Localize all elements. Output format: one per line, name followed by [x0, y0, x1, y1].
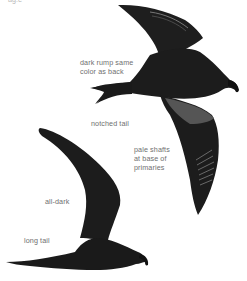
field-guide-illustration: ag.e dark rump same color as back notche… — [0, 0, 247, 281]
label-dark-rump: dark rump same color as back — [80, 58, 133, 76]
cropped-text: ag.e — [8, 0, 22, 4]
lower-bird — [6, 128, 148, 270]
label-all-dark: all-dark — [45, 197, 69, 206]
label-pale-shafts: pale shafts at base of primaries — [134, 145, 170, 172]
label-long-tail: long tail — [24, 236, 50, 245]
label-notched-tail: notched tail — [91, 119, 129, 128]
